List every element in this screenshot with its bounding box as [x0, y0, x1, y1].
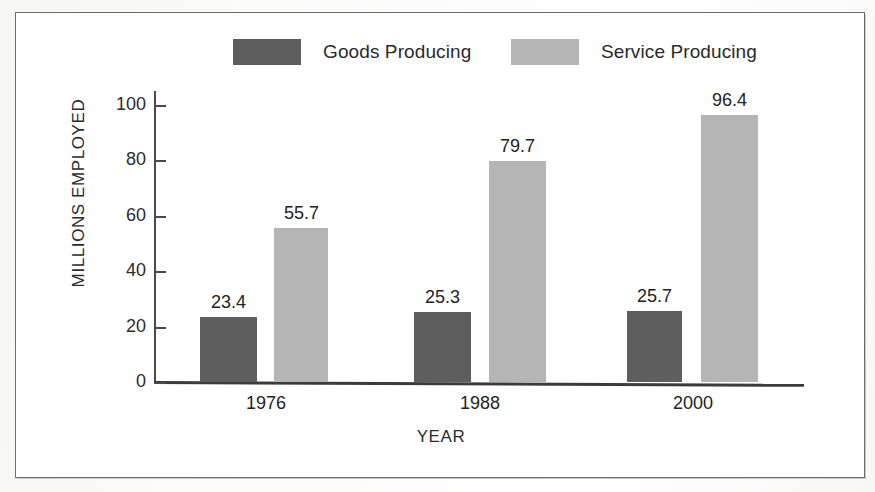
bar-service-producing-1976[interactable]	[274, 228, 328, 382]
figure-frame: Goods Producing Service Producing MILLIO…	[15, 12, 865, 478]
y-tick-0: 0	[94, 382, 146, 383]
bar-goods-producing-1988[interactable]	[414, 312, 471, 382]
bar-service-producing-1988[interactable]	[489, 161, 546, 382]
bar-service-producing-2000[interactable]	[701, 115, 758, 382]
bars-container	[16, 13, 866, 382]
x-axis-title: YEAR	[16, 427, 866, 447]
caption-remnant: . . . . . .	[196, 481, 257, 487]
bar-goods-producing-1976[interactable]	[200, 317, 257, 382]
plot-area: MILLIONS EMPLOYED 0 20 40 60 80	[16, 13, 866, 479]
x-tick-label-2000: 2000	[648, 393, 738, 414]
x-tick-label-1988: 1988	[435, 393, 525, 414]
bar-value-service-producing-2000: 96.4	[701, 90, 758, 111]
bar-value-goods-producing-1976: 23.4	[200, 292, 257, 313]
bar-value-service-producing-1976: 55.7	[273, 203, 330, 224]
bar-value-goods-producing-2000: 25.7	[626, 286, 683, 307]
bar-value-goods-producing-1988: 25.3	[414, 287, 471, 308]
x-tick-label-1976: 1976	[221, 393, 311, 414]
bar-goods-producing-2000[interactable]	[627, 311, 682, 382]
screenshot-root: Goods Producing Service Producing MILLIO…	[0, 0, 875, 492]
y-tick-mark-0	[154, 382, 166, 384]
bar-value-service-producing-1988: 79.7	[489, 136, 546, 157]
